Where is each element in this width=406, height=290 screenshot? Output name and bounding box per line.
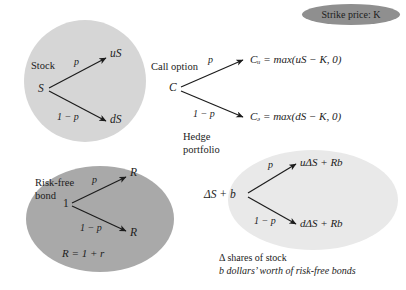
call-option-up-probability: p: [208, 54, 213, 65]
call-option-up-payoff: Cᵤ = max(uS − K, 0): [250, 53, 341, 65]
call-option-down-probability: 1 − p: [193, 108, 215, 119]
risk-free-bond-down-node: R: [130, 226, 137, 239]
hedge-portfolio-root-node: ΔS + b: [204, 188, 236, 201]
hedge-portfolio-up-node: uΔS + Rb: [300, 156, 343, 168]
stock-panel-title: Stock: [31, 60, 55, 72]
hedge-portfolio-down-node: dΔS + Rb: [300, 217, 343, 229]
figure-canvas: Strike price: K Stock S p 1 − p uS dS Ca…: [0, 0, 406, 290]
hedge-portfolio-down-probability: 1 − p: [254, 215, 276, 226]
stock-down-probability: 1 − p: [57, 111, 79, 122]
risk-free-bond-down-probability: 1 − p: [80, 222, 102, 233]
risk-free-bond-root-node: 1: [63, 197, 69, 210]
call-option-down-payoff: Cₔ = max(dS − K, 0): [250, 110, 341, 122]
stock-up-node: uS: [110, 47, 122, 60]
call-option-root-node: C: [169, 81, 177, 94]
risk-free-bond-panel-title-line1: Risk-free: [35, 177, 74, 189]
hedge-portfolio-up-probability: p: [268, 159, 273, 170]
stock-root-node: S: [38, 82, 44, 95]
hedge-portfolio-panel-title-line1: Hedge: [183, 131, 210, 143]
risk-free-bond-up-probability: p: [92, 174, 97, 185]
stock-down-node: dS: [110, 113, 122, 126]
stock-up-probability: p: [74, 56, 79, 67]
hedge-portfolio-caption-line1: Δ shares of stock: [219, 252, 287, 263]
hedge-portfolio-caption-line2: b dollars’ worth of risk-free bonds: [219, 265, 356, 276]
risk-free-bond-panel-title-line2: bond: [35, 190, 56, 202]
risk-free-bond-up-node: R: [130, 166, 137, 179]
risk-free-bond-rate-note: R = 1 + r: [62, 247, 104, 259]
hedge-portfolio-panel-title-line2: portfolio: [183, 144, 220, 156]
call-option-panel-title: Call option: [151, 61, 198, 73]
